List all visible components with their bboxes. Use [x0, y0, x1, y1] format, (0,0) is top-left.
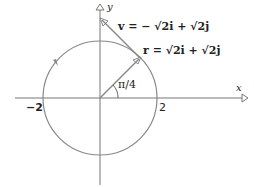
x-axis-arrow-icon — [242, 94, 248, 102]
angle-label: π/4 — [118, 78, 136, 91]
r-label: r = √2i + √2j — [143, 44, 220, 57]
tick-pos2: 2 — [159, 101, 166, 114]
y-axis-arrow-icon — [96, 4, 104, 10]
y-axis-label: y — [107, 1, 113, 12]
tick-neg2: −2 — [26, 101, 43, 114]
diagram: y x −2 2 π/4 v = − √2i + √2j r = √2i + √… — [0, 0, 254, 187]
x-axis-label: x — [236, 82, 242, 93]
v-label: v = − √2i + √2j — [118, 20, 209, 33]
